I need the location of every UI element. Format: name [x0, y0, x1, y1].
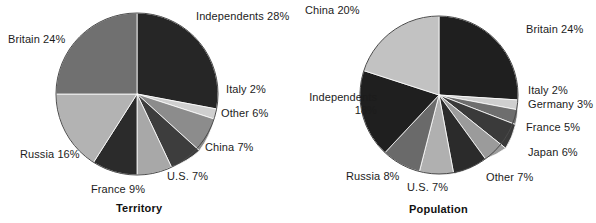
label-china-population: China 20% — [305, 4, 360, 17]
label-russia-territory: Russia 16% — [20, 148, 80, 161]
pie-slices-territory — [56, 13, 218, 175]
pie-territory — [0, 0, 300, 200]
label-japan-population: Japan 6% — [528, 146, 578, 159]
label-russia-population: Russia 8% — [346, 170, 399, 183]
label-china-territory: China 7% — [205, 141, 254, 154]
label-britain-population: Britain 24% — [526, 23, 583, 36]
chart-title-population: Population — [409, 203, 468, 215]
label-france-territory: France 9% — [91, 183, 145, 196]
two-pie-chart-figure: Independents 28% Britain 24% Italy 2% Ot… — [0, 0, 596, 223]
label-germany-population: Germany 3% — [528, 98, 593, 111]
chart-title-territory: Territory — [116, 202, 162, 214]
label-independents-territory: Independents 28% — [196, 10, 289, 23]
chart-population: China 20% Britain 24% Italy 2% Germany 3… — [296, 0, 596, 223]
label-france-population: France 5% — [526, 121, 580, 134]
label-independents-population: Independents 18% — [282, 91, 377, 117]
chart-territory: Independents 28% Britain 24% Italy 2% Ot… — [0, 0, 300, 223]
label-other-population: Other 7% — [486, 171, 533, 184]
label-us-population: U.S. 7% — [407, 181, 448, 194]
label-us-territory: U.S. 7% — [167, 170, 208, 183]
slice-britain — [56, 13, 137, 94]
label-britain-territory: Britain 24% — [8, 33, 65, 46]
slice-britain — [439, 16, 518, 100]
slice-independents — [137, 13, 218, 109]
label-italy-population: Italy 2% — [528, 84, 568, 97]
label-other-territory: Other 6% — [221, 107, 268, 120]
label-italy-territory: Italy 2% — [226, 83, 266, 96]
